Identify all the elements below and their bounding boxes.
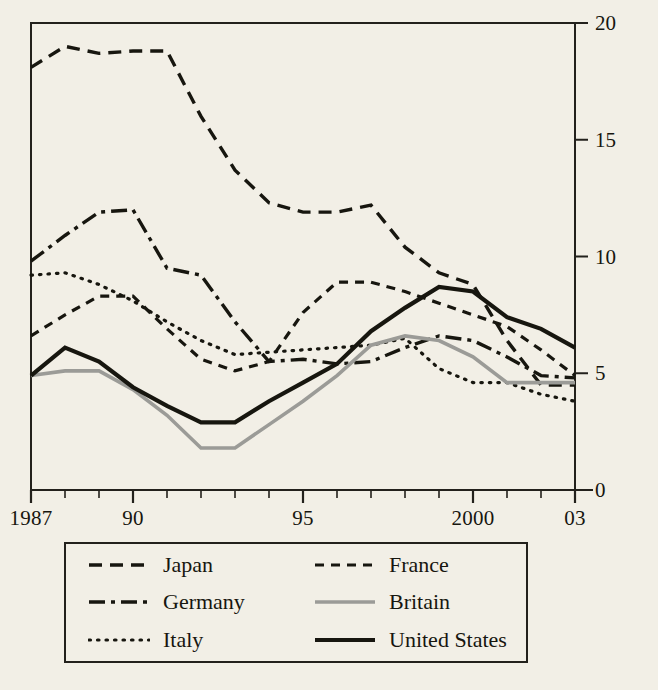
legend-swatch-icon <box>314 633 376 647</box>
x-tick-label: 2000 <box>452 506 495 531</box>
legend-item-britain[interactable]: Britain <box>296 591 526 613</box>
y-tick-label: 20 <box>595 11 616 36</box>
plot-area: 19879095200003 05101520 <box>0 0 658 520</box>
legend-label: Germany <box>163 591 245 613</box>
legend-label: Italy <box>163 629 203 651</box>
legend-item-france[interactable]: France <box>296 554 526 576</box>
legend-swatch-icon <box>88 558 150 572</box>
series-line-germany <box>31 210 575 378</box>
legend-swatch-icon <box>314 595 376 609</box>
legend-label: Japan <box>163 554 213 576</box>
line-chart-canvas <box>0 0 658 520</box>
legend-label: United States <box>389 629 507 651</box>
series-line-france <box>31 282 575 375</box>
x-tick-label: 1987 <box>10 506 53 531</box>
legend-grid: JapanFranceGermanyBritainItalyUnited Sta… <box>66 544 526 661</box>
legend-item-germany[interactable]: Germany <box>66 591 296 613</box>
y-tick-label: 5 <box>595 361 606 386</box>
x-tick-label: 95 <box>292 506 313 531</box>
legend-swatch-icon <box>88 595 150 609</box>
chart-figure: 19879095200003 05101520 JapanFranceGerma… <box>0 0 658 690</box>
plot-frame-left-top <box>31 23 575 490</box>
legend-label: France <box>389 554 449 576</box>
legend-label: Britain <box>389 591 450 613</box>
legend-item-united-states[interactable]: United States <box>296 629 526 651</box>
chart-legend: JapanFranceGermanyBritainItalyUnited Sta… <box>64 542 528 663</box>
y-tick-label: 10 <box>595 244 616 269</box>
legend-swatch-icon <box>88 633 150 647</box>
y-tick-label: 15 <box>595 127 616 152</box>
legend-item-italy[interactable]: Italy <box>66 629 296 651</box>
x-tick-label: 03 <box>564 506 585 531</box>
x-tick-label: 90 <box>122 506 143 531</box>
legend-item-japan[interactable]: Japan <box>66 554 296 576</box>
legend-swatch-icon <box>314 558 376 572</box>
series-line-britain <box>31 336 575 448</box>
y-tick-label: 0 <box>595 478 606 503</box>
series-line-japan <box>31 46 575 385</box>
